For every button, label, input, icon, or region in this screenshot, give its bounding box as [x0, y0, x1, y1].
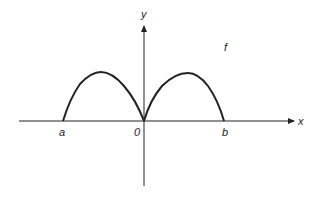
- tick-label-origin: 0: [134, 127, 140, 138]
- function-label: f: [224, 42, 227, 53]
- curve-left-arch: [63, 72, 144, 121]
- tick-label-b: b: [222, 127, 228, 138]
- curve-right-arch: [144, 73, 224, 121]
- graph-canvas: [0, 0, 317, 198]
- x-axis-label: x: [298, 116, 304, 127]
- y-axis-label: y: [141, 9, 147, 20]
- tick-label-a: a: [59, 127, 65, 138]
